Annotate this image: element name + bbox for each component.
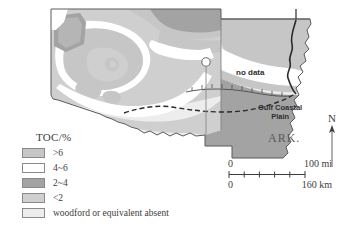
scale-bar: 0 100 mi 0 160 km xyxy=(228,158,328,191)
legend-item-absent: woodford or equivalent absent xyxy=(22,206,212,220)
well-location-marker[interactable] xyxy=(202,58,210,66)
legend-title: TOC/% xyxy=(36,131,212,143)
scale-ruler xyxy=(228,170,306,179)
gulf-label-line-1: Gulf Coastal xyxy=(258,103,302,112)
legend-label-4to6: 4~6 xyxy=(53,163,68,173)
north-arrow-icon xyxy=(322,123,342,169)
legend-swatch-gt6 xyxy=(22,148,45,158)
legend-label-absent: woodford or equivalent absent xyxy=(53,208,169,218)
legend-swatch-2to4 xyxy=(22,178,45,188)
scale-miles-row: 0 100 mi xyxy=(228,158,328,170)
legend-swatch-lt2 xyxy=(22,193,45,203)
legend-item-4to6: 4~6 xyxy=(22,161,212,175)
legend: TOC/% >6 4~6 2~4 <2 woodford or equivale… xyxy=(22,131,212,221)
north-arrow-letter: N xyxy=(322,113,342,123)
scale-miles-zero: 0 xyxy=(228,158,233,169)
legend-label-2to4: 2~4 xyxy=(53,178,68,188)
legend-item-2to4: 2~4 xyxy=(22,176,212,190)
legend-label-lt2: <2 xyxy=(53,193,63,203)
map-label-no-data: no data xyxy=(236,68,264,77)
legend-item-gt6: >6 xyxy=(22,146,212,160)
scale-km-row: 0 160 km xyxy=(228,179,328,191)
map-label-state-abbrev: ARK. xyxy=(268,131,300,146)
north-arrow: N xyxy=(322,113,342,173)
legend-label-gt6: >6 xyxy=(53,148,63,158)
map-figure: no data Gulf Coastal Plain ARK. TOC/% >6… xyxy=(0,0,363,245)
toc-facies-oklahoma xyxy=(51,9,221,135)
legend-item-lt2: <2 xyxy=(22,191,212,205)
legend-swatch-4to6 xyxy=(22,163,45,173)
legend-swatch-absent xyxy=(22,208,45,218)
scale-km-max: 160 km xyxy=(302,179,332,190)
gulf-label-line-2: Plain xyxy=(258,112,302,121)
scale-km-zero: 0 xyxy=(228,179,233,190)
map-label-gulf-coastal-plain: Gulf Coastal Plain xyxy=(258,103,302,121)
